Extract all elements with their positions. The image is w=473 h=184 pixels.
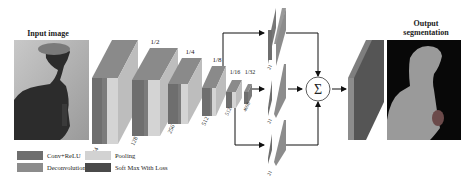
pooling-swatch: [85, 151, 111, 160]
conv-block-1: [92, 40, 138, 144]
deconvolution-swatch: [17, 163, 43, 172]
channel-label-128: 128: [129, 136, 138, 147]
legend-item-conv-relu: Conv+ReLU: [17, 151, 81, 160]
scale-label-thirtysecond: 1/32: [245, 69, 256, 75]
deconv-branch-bottom: [268, 120, 286, 166]
legend: Conv+ReLU Pooling Deconvolution Soft Max…: [17, 151, 177, 181]
channel-label-512a: 512: [200, 116, 209, 127]
scale-label-half: 1/2: [151, 38, 160, 46]
conv-block-4: [202, 66, 226, 116]
branch-label-middle: 21: [266, 117, 273, 124]
deconv-branch-top: [268, 8, 286, 66]
deconv-branch-middle: [268, 64, 286, 118]
scale-label-sixteenth: 1/16: [230, 69, 241, 75]
legend-label: Pooling: [115, 152, 135, 159]
output-title-line2: segmentation: [403, 28, 449, 37]
conv-relu-swatch: [17, 151, 43, 160]
input-image-title: Input image: [27, 29, 69, 38]
branch-label-bottom: 21: [266, 169, 273, 176]
legend-item-softmax: Soft Max With Loss: [85, 163, 168, 172]
output-title-line1: Output: [414, 19, 439, 28]
legend-item-pooling: Pooling: [85, 151, 135, 160]
conv-block-5: [226, 80, 242, 108]
sum-node: Σ: [306, 77, 330, 101]
output-segmentation-image: [387, 40, 461, 140]
scale-label-eighth: 1/8: [213, 56, 222, 64]
scale-label-quarter: 1/4: [186, 48, 195, 56]
channel-label-256: 256: [166, 124, 175, 135]
legend-label: Conv+ReLU: [47, 152, 81, 159]
legend-item-deconvolution: Deconvolution: [17, 163, 86, 172]
branch-label-top: 21: [266, 63, 273, 70]
channel-label-4096: 4096: [242, 101, 251, 113]
legend-label: Deconvolution: [47, 164, 86, 171]
input-image: [14, 40, 89, 140]
softmax-swatch: [85, 163, 111, 172]
sum-symbol: Σ: [314, 82, 322, 97]
final-deconv-block: [348, 40, 384, 140]
legend-label: Soft Max With Loss: [115, 164, 168, 171]
conv-block-6: [244, 84, 252, 104]
